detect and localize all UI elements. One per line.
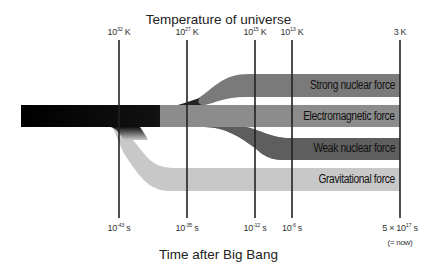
time-title: Time after Big Bang <box>0 247 437 262</box>
temperature-tick: 1015 K <box>244 26 267 37</box>
electromagnetic-force-label: Electromagnetic force <box>303 109 395 123</box>
time-tick: 10-43 s <box>108 222 131 233</box>
weak-force-label: Weak nuclear force <box>313 141 395 155</box>
temperature-title: Temperature of universe <box>0 12 437 27</box>
strong-force-label: Strong nuclear force <box>310 78 395 92</box>
temperature-tick: 1032 K <box>108 26 131 37</box>
gravitational-force-label: Gravitational force <box>319 172 395 186</box>
temperature-tick: 1027 K <box>176 26 199 37</box>
forces-diagram <box>0 0 437 277</box>
time-tick: 10-12 s <box>244 222 267 233</box>
time-tick: 10-6 s <box>282 222 302 233</box>
time-tick: 10-35 s <box>176 222 199 233</box>
time-tick: 5 × 1017 s <box>382 222 417 233</box>
now-note: (= now) <box>388 238 413 247</box>
temperature-tick: 1013 K <box>281 26 304 37</box>
temperature-tick: 3 K <box>394 26 407 37</box>
